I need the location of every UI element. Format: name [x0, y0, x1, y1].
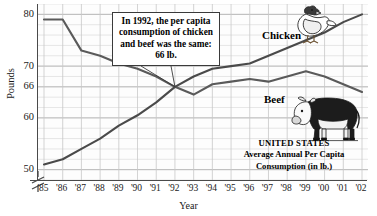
chart-caption: UNITED STATESAverage Annual Per CapitaCo…: [215, 138, 373, 172]
chart-caption-line: UNITED STATES: [215, 138, 373, 149]
cow-illustration: [288, 88, 366, 142]
x-axis-tick-label: '02: [349, 183, 373, 194]
series-label-chicken: Chicken: [262, 29, 301, 41]
x-axis-title: Year: [0, 200, 377, 211]
y-axis-title: Pounds: [5, 53, 16, 115]
x-axis-ticks: '85'86'87'88'89'90'91'92'93'94'95'96'97'…: [37, 183, 367, 197]
x-axis-line: [30, 180, 367, 181]
chart-caption-line: Average Annual Per Capita: [215, 149, 373, 160]
y-axis-tick-label: 80: [8, 9, 34, 20]
chart-caption-line: Consumption (in lb.): [215, 161, 373, 172]
crossing-callout: In 1992, the per capita consumption of c…: [112, 12, 220, 66]
chart-screenshot: 5060667080 Pounds '85'86'87'88'89'90'91'…: [0, 0, 377, 216]
series-label-beef: Beef: [264, 93, 285, 105]
